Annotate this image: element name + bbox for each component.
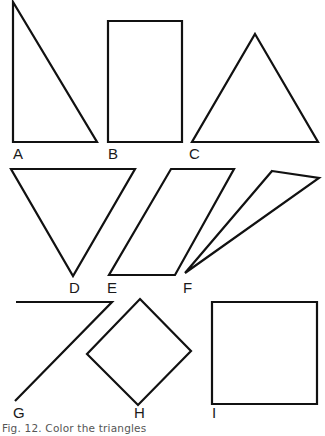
label-h: H bbox=[134, 405, 145, 420]
label-b: B bbox=[108, 146, 118, 161]
label-i: I bbox=[212, 405, 216, 420]
shape-i-square bbox=[212, 302, 317, 404]
label-a: A bbox=[13, 146, 23, 161]
shape-b-rectangle bbox=[108, 21, 182, 142]
shape-d-inverted-triangle bbox=[11, 169, 135, 276]
label-g: G bbox=[13, 405, 25, 420]
label-f: F bbox=[183, 280, 192, 295]
shape-h-diamond bbox=[87, 299, 191, 405]
shape-g-open-angle bbox=[15, 302, 112, 401]
figure-caption: Fig. 12. Color the triangles bbox=[2, 422, 146, 434]
shape-e-parallelogram bbox=[109, 169, 234, 275]
label-c: C bbox=[189, 146, 200, 161]
label-d: D bbox=[69, 280, 80, 295]
shape-a-right-triangle bbox=[13, 2, 97, 142]
label-e: E bbox=[107, 280, 117, 295]
shape-c-triangle bbox=[192, 34, 318, 142]
shapes-figure bbox=[0, 0, 325, 436]
